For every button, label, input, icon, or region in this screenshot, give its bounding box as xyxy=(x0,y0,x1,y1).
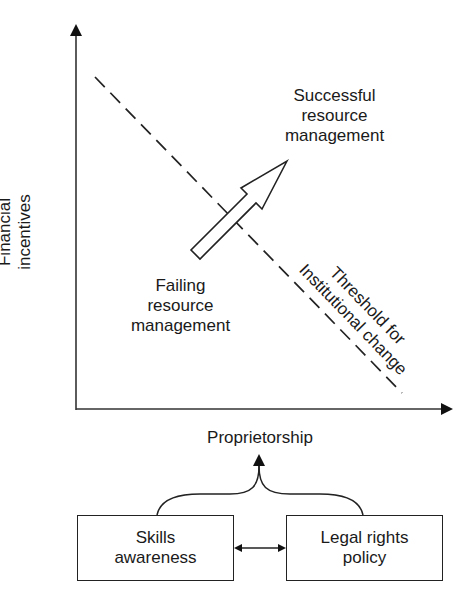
failing-line-2: resource xyxy=(108,296,253,316)
legal-box-line-1: Legal rights xyxy=(321,528,409,548)
failing-line-3: management xyxy=(108,316,253,336)
y-axis-arrowhead-icon xyxy=(70,24,82,36)
successful-region-label: Successful resource management xyxy=(262,86,407,146)
y-axis-label: Financial incentives xyxy=(0,182,35,282)
legal-box-line-2: policy xyxy=(321,548,409,568)
proprietorship-arrowhead-icon xyxy=(253,454,265,466)
skills-box-line-2: awareness xyxy=(114,548,196,568)
failing-line-1: Failing xyxy=(108,276,253,296)
successful-line-3: management xyxy=(262,126,407,146)
brace-right-curve xyxy=(259,466,363,515)
skills-box-line-1: Skills xyxy=(114,528,196,548)
x-axis-label: Proprietorship xyxy=(180,428,340,448)
left-arrowhead-icon xyxy=(234,544,242,552)
y-axis-label-line-1: Financial xyxy=(0,182,15,282)
x-axis-arrowhead-icon xyxy=(441,403,453,415)
right-arrowhead-icon xyxy=(278,544,286,552)
successful-line-2: resource xyxy=(262,106,407,126)
brace-left-curve xyxy=(157,466,259,515)
successful-line-1: Successful xyxy=(262,86,407,106)
skills-awareness-box: Skills awareness xyxy=(77,515,234,581)
y-axis-label-line-2: incentives xyxy=(15,182,35,282)
failing-region-label: Failing resource management xyxy=(108,276,253,336)
legal-rights-policy-box: Legal rights policy xyxy=(286,515,443,581)
transition-arrow-icon xyxy=(191,161,287,259)
